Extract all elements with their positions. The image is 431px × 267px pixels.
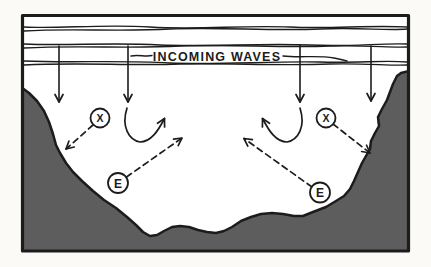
e-marker-right: E [310, 183, 330, 203]
incoming-waves-label: INCOMING WAVES [153, 50, 281, 64]
e-marker-left: E [108, 173, 128, 193]
x-marker-label: X [96, 112, 103, 124]
wave-line [131, 56, 152, 57]
e-marker-label: E [114, 177, 122, 191]
x-marker-right: X [317, 109, 336, 128]
diagram-canvas: INCOMING WAVES X [0, 0, 431, 267]
x-marker-left: X [91, 109, 110, 128]
x-marker-label: X [322, 112, 329, 124]
wave-refraction-diagram: INCOMING WAVES X [0, 0, 431, 267]
e-marker-label: E [316, 186, 324, 200]
